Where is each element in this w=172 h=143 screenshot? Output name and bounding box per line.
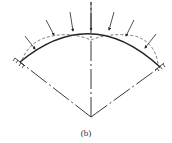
radial-lines xyxy=(20,2,160,117)
arch-curve xyxy=(20,34,160,67)
figure-caption: (b) xyxy=(0,128,172,138)
arch-diagram xyxy=(0,0,172,143)
load-arrows xyxy=(25,2,156,49)
